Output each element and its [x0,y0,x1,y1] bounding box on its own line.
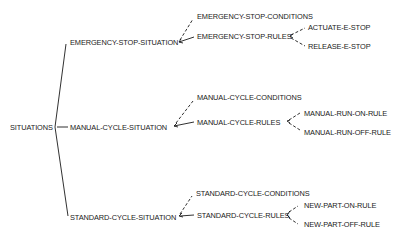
rule-item-actuate-e-stop: ACTUATE-E-STOP [308,23,370,32]
rule-item-new-part-on: NEW-PART-ON-RULE [304,201,376,210]
conditions-node-manual: MANUAL-CYCLE-CONDITIONS [197,93,301,102]
rule-item-manual-run-off: MANUAL-RUN-OFF-RULE [304,128,391,137]
conditions-node-emergency: EMERGENCY-STOP-CONDITIONS [197,12,313,21]
rule-item-manual-run-on: MANUAL-RUN-ON-RULE [304,109,387,118]
situation-node-manual: MANUAL-CYCLE-SITUATION [70,123,167,132]
root-node: SITUATIONS [10,123,53,132]
rules-node-standard: STANDARD-CYCLE-RULES [197,211,289,220]
manual-off-dashed [289,123,300,130]
situation-node-emergency: EMERGENCY-STOP-SITUATION [70,38,178,47]
conditions-node-standard: STANDARD-CYCLE-CONDITIONS [196,189,310,198]
manual-on-dashed [289,113,300,120]
situation-node-standard: STANDARD-CYCLE-SITUATION [70,213,176,222]
rules-node-emergency: EMERGENCY-STOP-RULES [197,32,292,41]
rule-item-new-part-off: NEW-PART-OFF-RULE [304,220,380,229]
standard-conditions-dashed [180,196,192,214]
standard-on-dashed [289,206,298,212]
standard-rules-line [180,215,194,216]
manual-rules-line [174,122,194,126]
emergency-conditions-dashed [180,19,193,40]
root-to-emergency-line [55,44,66,127]
standard-arrowhead [179,213,183,217]
situations-tree-diagram: SITUATIONS EMERGENCY-STOP-SITUATION EMER… [0,0,395,240]
root-to-standard-line [55,127,68,216]
manual-rules-arrowhead [287,120,290,123]
emergency-actuate-dashed [291,28,305,35]
rules-node-manual: MANUAL-CYCLE-RULES [197,118,280,127]
manual-conditions-dashed [176,101,193,123]
standard-off-dashed [289,218,298,224]
rule-item-release-e-stop: RELEASE-E-STOP [308,42,371,51]
emergency-release-dashed [291,38,305,46]
